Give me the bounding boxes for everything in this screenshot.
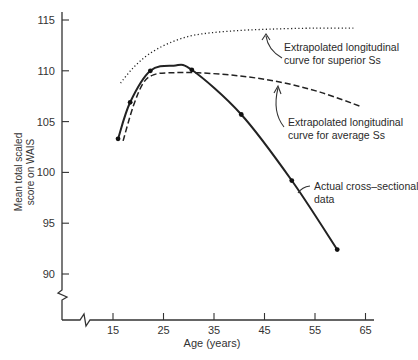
x-tick-label: 25 [157, 324, 169, 336]
data-point-marker [189, 67, 194, 72]
x-ticks: 152535455565 [107, 313, 372, 336]
svg-text:Extrapolated longitudinal: Extrapolated longitudinal [288, 116, 403, 128]
data-point-marker [148, 68, 153, 73]
data-point-marker [128, 100, 133, 105]
x-tick-label: 35 [208, 324, 220, 336]
svg-text:curve for superior Ss: curve for superior Ss [284, 54, 381, 66]
data-point-marker [289, 178, 294, 183]
annotation-actual: Actual cross–sectional data [298, 180, 418, 205]
data-point-marker [239, 112, 244, 117]
svg-text:Extrapolated longitudinal: Extrapolated longitudinal [284, 41, 399, 53]
y-ticks: 9095100105110115 [37, 14, 69, 280]
x-tick-label: 65 [359, 324, 371, 336]
data-point-marker [116, 136, 121, 141]
x-axis-label: Age (years) [184, 337, 241, 349]
svg-text:Mean total scaled: Mean total scaled [13, 133, 24, 211]
annotation-average: Extrapolated longitudinal curve for aver… [274, 86, 403, 141]
svg-text:data: data [314, 193, 335, 205]
y-tick-label: 115 [37, 14, 55, 26]
actual-data-line [118, 65, 337, 250]
y-tick-label: 95 [43, 217, 55, 229]
svg-text:score on WAIS: score on WAIS [25, 139, 36, 206]
y-tick-label: 90 [43, 268, 55, 280]
y-tick-label: 100 [37, 166, 55, 178]
y-tick-label: 105 [37, 116, 55, 128]
annotation-superior: Extrapolated longitudinal curve for supe… [262, 34, 399, 66]
svg-text:Actual cross–sectional: Actual cross–sectional [314, 180, 418, 192]
y-axis-label: Mean total scaled score on WAIS [13, 133, 36, 211]
x-tick-label: 15 [107, 324, 119, 336]
y-tick-label: 110 [37, 65, 55, 77]
arrow-superior-icon [266, 36, 282, 58]
data-point-marker [335, 247, 340, 252]
x-tick-label: 45 [258, 324, 270, 336]
svg-text:curve for average Ss: curve for average Ss [288, 129, 385, 141]
arrow-average-icon [276, 88, 284, 127]
chart: 9095100105110115 152535455565 Age (years… [0, 0, 418, 360]
x-tick-label: 55 [309, 324, 321, 336]
